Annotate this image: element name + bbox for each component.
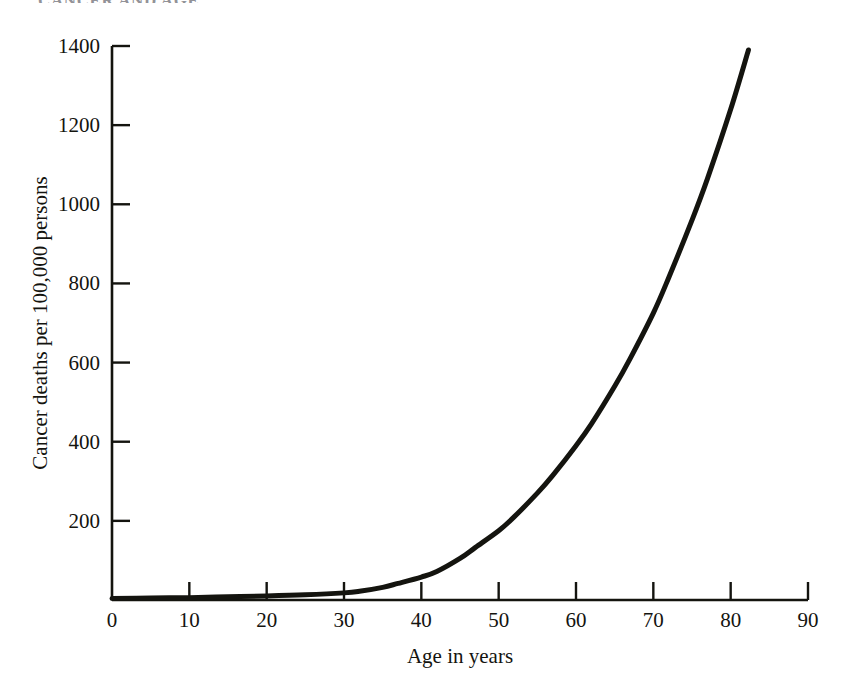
data-series-line xyxy=(112,50,748,598)
y-tick-label-1000: 1000 xyxy=(58,192,100,216)
axes-group xyxy=(112,46,808,600)
y-tick-label-400: 400 xyxy=(69,430,101,454)
y-axis-tick-labels: 200400600800100012001400 xyxy=(58,34,100,533)
y-tick-label-600: 600 xyxy=(69,351,101,375)
y-axis-ticks xyxy=(112,46,130,521)
x-tick-label-70: 70 xyxy=(643,608,664,632)
x-tick-label-10: 10 xyxy=(179,608,200,632)
x-tick-label-90: 90 xyxy=(798,608,819,632)
x-tick-label-80: 80 xyxy=(720,608,741,632)
x-axis-title: Age in years xyxy=(407,644,513,668)
y-tick-label-800: 800 xyxy=(69,271,101,295)
x-tick-label-60: 60 xyxy=(566,608,587,632)
x-axis-tick-labels: 0102030405060708090 xyxy=(107,608,819,632)
y-tick-label-1200: 1200 xyxy=(58,113,100,137)
x-tick-label-0: 0 xyxy=(107,608,118,632)
figure-root: CANCER AND AGE 200400600800100012001400 … xyxy=(0,0,842,679)
cancer-deaths-by-age-chart: 200400600800100012001400 010203040506070… xyxy=(0,0,842,679)
x-tick-label-30: 30 xyxy=(334,608,355,632)
y-axis-title: Cancer deaths per 100,000 persons xyxy=(28,176,52,469)
y-tick-label-1400: 1400 xyxy=(58,34,100,58)
x-tick-label-20: 20 xyxy=(256,608,277,632)
y-tick-label-200: 200 xyxy=(69,509,101,533)
x-tick-label-40: 40 xyxy=(411,608,432,632)
x-tick-label-50: 50 xyxy=(488,608,509,632)
